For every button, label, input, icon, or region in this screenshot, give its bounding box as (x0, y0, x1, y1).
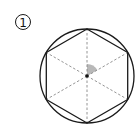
radius-line (46, 53, 87, 77)
label-numeral: 1 (19, 16, 27, 30)
radius-line (46, 76, 87, 100)
hexagon-in-circle-diagram: 1 (0, 0, 138, 139)
shaded-central-angle (87, 64, 97, 76)
center-point (85, 74, 89, 78)
figure-label: 1 (16, 15, 31, 30)
radius-line (87, 76, 128, 100)
radius-line (87, 53, 128, 77)
